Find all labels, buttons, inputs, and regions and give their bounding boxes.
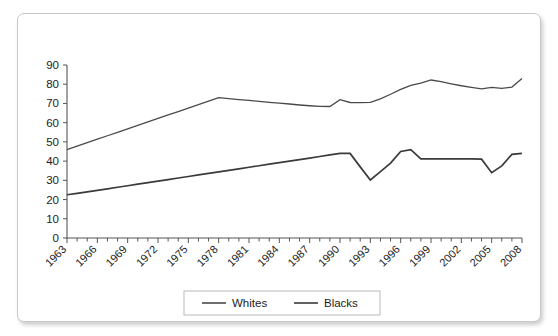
y-tick-label: 10: [46, 213, 59, 225]
y-tick-label: 30: [46, 174, 59, 186]
x-tick-label: 1969: [103, 243, 129, 269]
y-tick-label: 70: [46, 97, 59, 109]
x-tick-label: 1963: [43, 243, 69, 269]
x-tick-label: 2005: [467, 243, 493, 269]
x-tick-label: 1981: [225, 243, 251, 269]
x-tick-label: 1978: [194, 243, 220, 269]
x-tick-label: 1996: [376, 243, 402, 269]
y-tick-label: 90: [46, 59, 59, 71]
figure-root: 0102030405060708090196319661969197219751…: [0, 0, 558, 336]
x-tick-label: 2002: [437, 243, 463, 269]
y-tick-label: 80: [46, 78, 59, 90]
y-tick-label: 20: [46, 194, 59, 206]
x-tick-label: 1972: [134, 243, 160, 269]
legend-label-whites: Whites: [232, 297, 267, 309]
series-line-blacks: [67, 150, 522, 195]
line-chart: 0102030405060708090196319661969197219751…: [18, 14, 542, 323]
y-tick-label: 50: [46, 136, 59, 148]
y-tick-label: 60: [46, 117, 59, 129]
x-tick-label: 1999: [407, 243, 433, 269]
y-tick-label: 0: [53, 232, 59, 244]
x-tick-label: 1987: [285, 243, 311, 269]
x-tick-label: 1993: [346, 243, 372, 269]
x-tick-label: 1966: [73, 243, 99, 269]
y-tick-label: 40: [46, 155, 59, 167]
legend-label-blacks: Blacks: [324, 297, 358, 309]
plot-area: 0102030405060708090196319661969197219751…: [18, 14, 542, 323]
x-tick-label: 1990: [316, 243, 342, 269]
x-tick-label: 1975: [164, 243, 190, 269]
x-tick-label: 1984: [255, 243, 281, 269]
series-line-whites: [67, 78, 522, 149]
x-tick-label: 2008: [498, 243, 524, 269]
chart-frame: 0102030405060708090196319661969197219751…: [17, 13, 541, 322]
